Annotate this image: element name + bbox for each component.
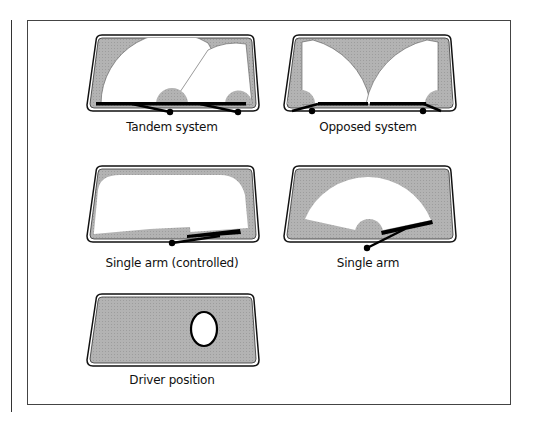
driver-position-windshield-diagram: [0, 0, 536, 424]
driver-sight-area: [191, 312, 217, 346]
panel-label: Driver position: [129, 373, 214, 387]
